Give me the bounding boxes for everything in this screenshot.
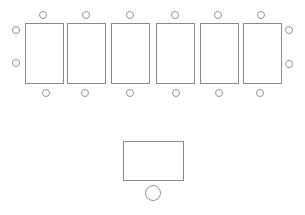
front-seat-circle	[146, 186, 161, 201]
front-desk	[124, 142, 184, 181]
desk-table-6	[244, 24, 282, 84]
desk-table-2	[68, 24, 106, 84]
seat-circle	[172, 12, 179, 19]
seat-circle	[82, 90, 89, 97]
seat-circle	[286, 27, 293, 34]
seat-circle	[286, 61, 293, 68]
seat-circle	[127, 90, 134, 97]
seating-diagram	[0, 0, 305, 215]
seat-circle	[215, 12, 222, 19]
seat-circle	[258, 12, 265, 19]
desk-table-1	[26, 24, 64, 84]
desk-table-3	[112, 24, 150, 84]
seat-circle	[43, 90, 50, 97]
seat-circle	[127, 12, 134, 19]
seat-circle	[83, 12, 90, 19]
seat-circle	[216, 90, 223, 97]
seat-circle	[40, 12, 47, 19]
seat-circle	[257, 90, 264, 97]
seat-circle	[173, 90, 180, 97]
seat-circle	[13, 27, 20, 34]
desk-table-5	[201, 24, 239, 84]
seat-circle	[13, 60, 20, 67]
desk-table-4	[157, 24, 195, 84]
